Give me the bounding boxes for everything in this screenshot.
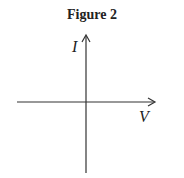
x-axis-label: V <box>139 108 149 126</box>
axes <box>0 0 184 178</box>
y-axis-label: I <box>72 38 77 56</box>
